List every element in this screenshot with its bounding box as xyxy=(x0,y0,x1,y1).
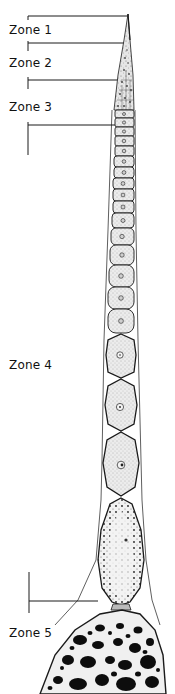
zone-2-label: Zone 2 xyxy=(9,56,52,70)
zone-5-label: Zone 5 xyxy=(9,626,52,640)
zone-4-label: Zone 4 xyxy=(9,358,52,372)
zone-1-label: Zone 1 xyxy=(9,23,52,37)
ovariole-figure: Zone 1 Zone 2 Zone 3 Zone 4 Zone 5 xyxy=(0,0,175,694)
germarium xyxy=(114,14,134,110)
zone-3-label: Zone 3 xyxy=(9,100,52,114)
mature-egg xyxy=(40,610,166,694)
vitellogenic-chamber xyxy=(98,498,144,610)
